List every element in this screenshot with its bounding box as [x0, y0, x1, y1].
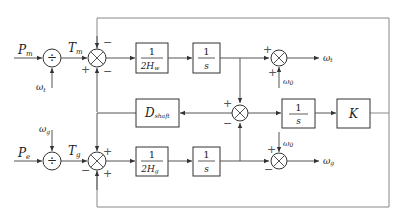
svg-text:+: +: [267, 143, 276, 156]
summing-junction-bottom-right: + − ω0 ωg: [264, 132, 334, 176]
svg-text:ω0: ω0: [283, 77, 294, 86]
svg-text:Tm: Tm: [68, 41, 83, 56]
two-mass-shaft-block-diagram: Pm ÷ ωt Tm − + − 1 2Hw 1 s: [0, 0, 404, 222]
svg-text:÷: ÷: [47, 154, 57, 168]
svg-text:1: 1: [203, 46, 209, 57]
summing-junction-top-left: − + −: [81, 36, 112, 112]
input-pm: Pm: [14, 43, 42, 58]
output-omega-g: ωg: [323, 156, 334, 167]
block-integrator-top: 1 s: [193, 43, 220, 73]
svg-text:+: +: [81, 63, 90, 76]
svg-text:s: s: [204, 164, 209, 174]
svg-text:÷: ÷: [47, 51, 57, 65]
output-omega-t: ωt: [323, 53, 333, 63]
svg-text:+: +: [268, 66, 277, 79]
block-integrator-bottom: 1 s: [193, 147, 220, 176]
svg-text:−: −: [264, 163, 273, 176]
svg-text:s: s: [204, 61, 209, 71]
svg-text:−: −: [103, 65, 112, 78]
svg-text:1: 1: [203, 149, 209, 160]
svg-text:+: +: [103, 167, 112, 180]
summing-junction-top-right: + + ω0 ωt: [263, 43, 333, 88]
block-integrator-middle: 1 s: [282, 99, 315, 128]
block-inertia-turbine: 1 2Hw: [136, 43, 168, 73]
svg-text:−: −: [81, 164, 90, 177]
svg-text:ω0: ω0: [283, 139, 294, 148]
svg-text:+: +: [263, 43, 272, 56]
svg-text:K: K: [348, 107, 359, 121]
block-damping: Dshaft: [136, 99, 179, 127]
block-inertia-generator: 1 2Hg: [136, 147, 168, 176]
svg-text:1: 1: [149, 149, 155, 160]
svg-text:1: 1: [149, 46, 155, 57]
svg-text:Tg: Tg: [68, 144, 81, 159]
svg-text:−: −: [103, 36, 112, 49]
svg-text:−: −: [223, 117, 232, 130]
divider-top: ÷ ωt Tm: [36, 41, 87, 93]
svg-text:ωg: ωg: [39, 124, 50, 136]
svg-text:Pm: Pm: [17, 43, 33, 58]
svg-text:+: +: [103, 145, 112, 158]
svg-text:Pe: Pe: [17, 146, 30, 161]
divider-bottom: ÷ ωg Tg: [39, 124, 87, 170]
svg-text:s: s: [296, 116, 301, 126]
summing-junction-bottom-left: + − +: [81, 113, 112, 190]
block-stiffness: K: [337, 99, 370, 128]
svg-text:+: +: [223, 97, 232, 110]
input-pe: Pe: [14, 146, 42, 161]
svg-text:ωt: ωt: [36, 82, 46, 93]
svg-text:1: 1: [295, 102, 301, 113]
